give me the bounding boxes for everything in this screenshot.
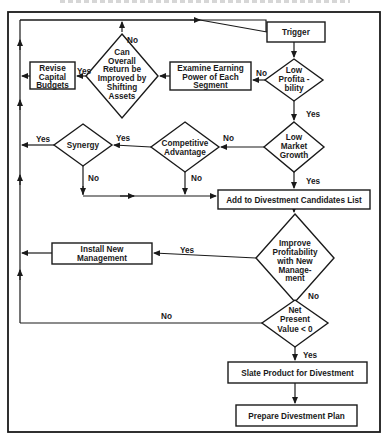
- slate-label: Slate Product for Divestment: [241, 369, 354, 378]
- node-can-overall-return: Can Overall Return be Improved by Shifti…: [86, 34, 158, 118]
- edge-label-syn-no: No: [88, 174, 99, 183]
- edge-label-lp-yes: Yes: [306, 110, 321, 119]
- trigger-label: Trigger: [282, 28, 311, 37]
- edge-label-ip-no: No: [308, 292, 319, 301]
- edge-label-lp-no: No: [256, 69, 267, 78]
- low-profitability-label-1: Low: [286, 66, 303, 75]
- node-prepare-plan: Prepare Divestment Plan: [236, 405, 357, 426]
- npv-label-1: Net: [288, 306, 301, 315]
- low-market-label-1: Low: [286, 133, 303, 142]
- revise-label-3: Budgets: [36, 81, 69, 90]
- edge-label-ca-no: No: [191, 174, 202, 183]
- edge-label-lmg-no: No: [223, 134, 234, 143]
- prepare-label: Prepare Divestment Plan: [248, 412, 344, 421]
- edge-label-cor-yes: Yes: [77, 67, 92, 76]
- can-overall-label-4: Improved by: [98, 74, 147, 83]
- low-profitability-label-3: bility: [284, 84, 304, 93]
- node-install-new-management: Install New Management: [52, 243, 152, 264]
- npv-label-3: Value < 0: [277, 325, 313, 334]
- edge-label-npv-no: No: [161, 312, 172, 321]
- edge-label-npv-yes: Yes: [303, 351, 318, 360]
- node-revise-capital-budgets: Revise Capital Budgets: [30, 62, 75, 90]
- edge-label-cor-no: No: [127, 36, 138, 45]
- competitive-label-2: Advantage: [164, 148, 206, 157]
- install-label-1: Install New: [81, 245, 124, 254]
- npv-label-2: Present: [280, 315, 310, 324]
- can-overall-label-6: Assets: [109, 92, 136, 101]
- install-label-2: Management: [77, 254, 127, 263]
- low-market-label-3: Growth: [280, 151, 309, 160]
- low-profitability-label-2: Profita -: [279, 75, 310, 84]
- node-synergy: Synergy: [54, 124, 112, 166]
- edge-label-ca-yes: Yes: [116, 134, 131, 143]
- improve-label-2: Profitability: [272, 248, 317, 257]
- improve-label-5: ment: [285, 274, 305, 283]
- node-competitive-advantage: Competitive Advantage: [151, 122, 219, 172]
- node-improve-profitability: Improve Profitability with New Manage- m…: [256, 214, 334, 302]
- node-add-to-candidates: Add to Divestment Candidates List: [218, 190, 370, 209]
- edge-label-lmg-yes: Yes: [306, 177, 321, 186]
- node-low-profitability: Low Profita - bility: [265, 59, 323, 101]
- node-low-market-growth: Low Market Growth: [264, 122, 324, 172]
- improve-label-1: Improve: [279, 239, 311, 248]
- node-trigger: Trigger: [267, 22, 325, 42]
- node-examine-earning-power: Examine Earning Power of Each Segment: [170, 62, 251, 90]
- synergy-label: Synergy: [67, 141, 100, 150]
- node-slate-product: Slate Product for Divestment: [228, 362, 367, 383]
- add-candidates-label: Add to Divestment Candidates List: [226, 196, 362, 205]
- edge-label-syn-yes: Yes: [36, 135, 51, 144]
- edge-label-ip-yes: Yes: [180, 246, 195, 255]
- node-net-present-value: Net Present Value < 0: [262, 300, 328, 347]
- flowchart: Trigger Low Profita - bility Examine Ear…: [0, 0, 383, 437]
- examine-label-3: Segment: [193, 81, 228, 90]
